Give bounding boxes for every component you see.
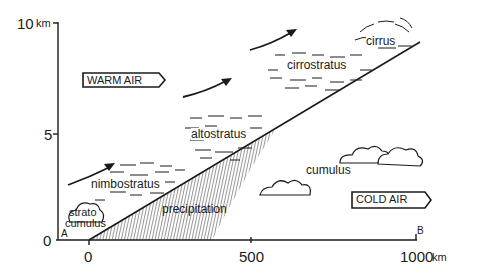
stratocumulus-label-line2: cumulus: [65, 218, 106, 229]
point-b: B: [417, 226, 424, 236]
x-tick-500: 500: [239, 249, 264, 264]
x-tick-1000: 1000: [400, 249, 433, 264]
y-tick-10: 10: [17, 16, 34, 31]
cirrostratus-label: cirrostratus: [287, 59, 346, 71]
y-tick-0: 0: [43, 233, 51, 248]
precipitation-label: precipitation: [162, 203, 227, 215]
nimbostratus-label: nimbostratus: [91, 178, 160, 190]
warm-air-flow-arrows: [68, 32, 292, 185]
x-unit: km: [432, 252, 447, 263]
cold-air-label: COLD AIR: [356, 194, 407, 205]
warm-air-label: WARM AIR: [87, 75, 142, 86]
warm-front-surface: [89, 42, 420, 240]
y-unit: km: [36, 18, 51, 29]
x-tick-0: 0: [84, 249, 92, 264]
cirrus-label: cirrus: [366, 35, 395, 47]
cumulus-label: cumulus: [306, 164, 351, 176]
altostratus-label: altostratus: [191, 128, 246, 140]
point-a: A: [61, 229, 68, 239]
stratiform-cloud-strokes: [95, 18, 412, 200]
y-tick-5: 5: [44, 127, 52, 142]
